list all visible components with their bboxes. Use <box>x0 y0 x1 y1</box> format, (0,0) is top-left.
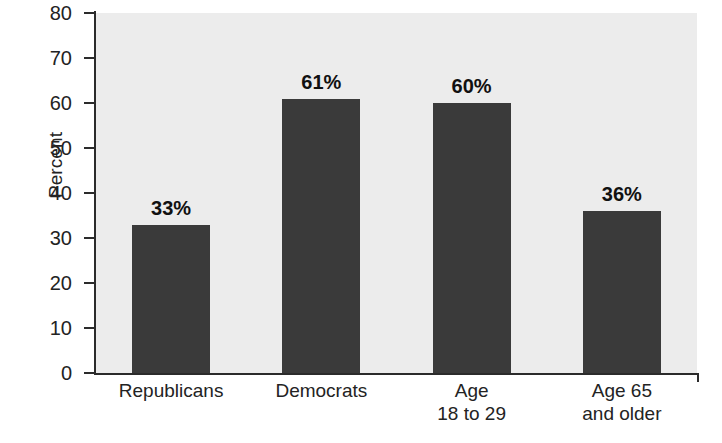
x-axis-category-label: Age 65and older <box>547 380 697 426</box>
y-axis-tick-label: 0 <box>26 363 72 383</box>
y-axis-tick-mark <box>84 327 95 329</box>
y-axis-tick-mark <box>84 372 95 374</box>
x-axis-category-label-line: Republicans <box>96 380 246 403</box>
bar-slot: 33% <box>96 13 246 373</box>
y-axis-tick-mark <box>84 237 95 239</box>
bar <box>583 211 661 373</box>
bar <box>282 99 360 374</box>
bar-slot: 36% <box>547 13 697 373</box>
y-axis-tick-mark <box>84 12 95 14</box>
y-axis-title: Percent <box>45 105 75 225</box>
bar-slot: 60% <box>397 13 547 373</box>
y-axis-tick-label: 80 <box>26 3 72 23</box>
y-axis-tick-label: 10 <box>26 318 72 338</box>
y-axis-tick-mark <box>84 282 95 284</box>
x-axis-category-label-line: 18 to 29 <box>397 403 547 426</box>
bar <box>132 225 210 374</box>
bar-chart-figure: Percent 80706050403020100 33%61%60%36% R… <box>0 0 722 443</box>
x-axis-category-label-line: Democrats <box>246 380 396 403</box>
x-axis-category-label: Republicans <box>96 380 246 403</box>
y-axis-tick-mark <box>84 102 95 104</box>
bar-value-label: 61% <box>246 72 396 92</box>
y-axis-tick-label: 30 <box>26 228 72 248</box>
bar-value-label: 33% <box>96 198 246 218</box>
y-axis-tick-label: 50 <box>26 138 72 158</box>
x-axis-end-tick <box>697 373 699 382</box>
bar-value-label: 60% <box>397 76 547 96</box>
x-axis-category-label-line: Age 65 <box>547 380 697 403</box>
y-axis-tick-mark <box>84 147 95 149</box>
bar-slot: 61% <box>246 13 396 373</box>
y-axis-tick-label: 60 <box>26 93 72 113</box>
x-axis-category-label: Democrats <box>246 380 396 403</box>
y-axis-tick-mark <box>84 192 95 194</box>
bar <box>433 103 511 373</box>
x-axis-category-label-line: and older <box>547 403 697 426</box>
y-axis-tick-label: 70 <box>26 48 72 68</box>
x-axis-category-label-line: Age <box>397 380 547 403</box>
y-axis-tick-mark <box>84 57 95 59</box>
x-axis-line <box>94 373 699 375</box>
y-axis-tick-label: 40 <box>26 183 72 203</box>
x-axis-category-label: Age18 to 29 <box>397 380 547 426</box>
bar-value-label: 36% <box>547 184 697 204</box>
y-axis-tick-label: 20 <box>26 273 72 293</box>
